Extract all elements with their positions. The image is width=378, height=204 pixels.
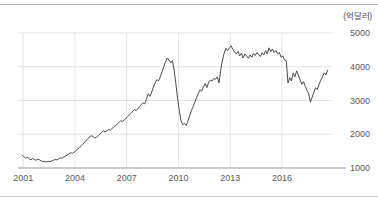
y-tick-label-1000: 1000 (350, 163, 370, 173)
y-tick-label-4000: 4000 (350, 62, 370, 72)
line-chart-svg: 10002000300040005000 2001200420072010201… (0, 0, 378, 204)
y-axis-tick-labels: 10002000300040005000 (350, 28, 370, 173)
x-axis-tick-labels: 200120042007201020132016 (13, 173, 292, 183)
x-tick-label-2010: 2010 (168, 173, 188, 183)
x-tick-label-2001: 2001 (13, 173, 33, 183)
horizontal-gridlines (18, 33, 332, 134)
y-tick-label-3000: 3000 (350, 96, 370, 106)
x-tick-label-2007: 2007 (117, 173, 137, 183)
x-tick-label-2004: 2004 (65, 173, 85, 183)
plot-area: 10002000300040005000 2001200420072010201… (0, 0, 378, 204)
x-tick-label-2013: 2013 (220, 173, 240, 183)
y-tick-label-2000: 2000 (350, 129, 370, 139)
y-tick-label-5000: 5000 (350, 28, 370, 38)
chart-figure: (억달러) 10002000300040005000 2001200420072… (0, 0, 378, 204)
x-tick-label-2016: 2016 (272, 173, 292, 183)
